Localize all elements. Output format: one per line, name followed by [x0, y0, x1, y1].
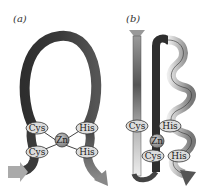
zn-atom-b: Zn — [150, 134, 164, 148]
panel-b-label: (b) — [126, 13, 140, 24]
svg-text:His: His — [79, 123, 95, 133]
his-top-residue-b: His — [159, 120, 181, 132]
svg-text:Cys: Cys — [29, 123, 46, 133]
loop-ribbon — [25, 36, 97, 128]
cys-top-residue-b: Cys — [126, 120, 148, 132]
left-arrow-icon — [8, 162, 28, 182]
panel-a-label: (a) — [13, 13, 27, 24]
panel-a: (a) Cys Cys His His — [8, 13, 108, 186]
svg-text:His: His — [79, 147, 95, 157]
his-top-residue: His — [76, 122, 98, 134]
svg-text:Cys: Cys — [29, 147, 46, 157]
panel-b: (b) Cys His Zn Cys Hi — [126, 13, 196, 186]
cys-bottom-residue: Cys — [26, 146, 48, 158]
svg-text:Zn: Zn — [151, 136, 163, 146]
his-bottom-residue: His — [76, 146, 98, 158]
svg-text:His: His — [171, 151, 187, 161]
svg-text:Cys: Cys — [129, 121, 146, 131]
zinc-finger-diagram: (a) Cys Cys His His — [0, 0, 222, 194]
svg-text:Cys: Cys — [145, 151, 162, 161]
descending-strand — [133, 36, 141, 176]
svg-text:His: His — [162, 121, 178, 131]
cys-top-residue: Cys — [26, 122, 48, 134]
zn-atom: Zn — [55, 133, 69, 147]
svg-text:Zn: Zn — [56, 135, 68, 145]
cys-bottom-residue-b: Cys — [142, 150, 164, 162]
his-bottom-residue-b: His — [168, 150, 190, 162]
